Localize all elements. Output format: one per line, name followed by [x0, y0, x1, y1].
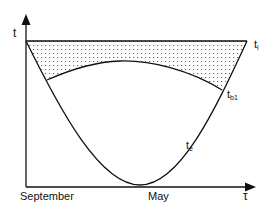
- balance-temperature-label: tb1: [227, 88, 238, 101]
- x-axis-end-label: May: [148, 190, 169, 202]
- shaded-region: [26, 41, 248, 91]
- heating-season-diagram: t ti tb1 te September May τ: [0, 0, 277, 211]
- outdoor-temperature-label: te: [186, 139, 193, 152]
- x-axis-start-label: September: [20, 190, 74, 202]
- y-axis-arrow-icon: [22, 14, 31, 25]
- y-axis-label: t: [13, 26, 17, 40]
- x-axis-label: τ: [243, 189, 248, 203]
- indoor-temperature-label: ti: [254, 38, 259, 51]
